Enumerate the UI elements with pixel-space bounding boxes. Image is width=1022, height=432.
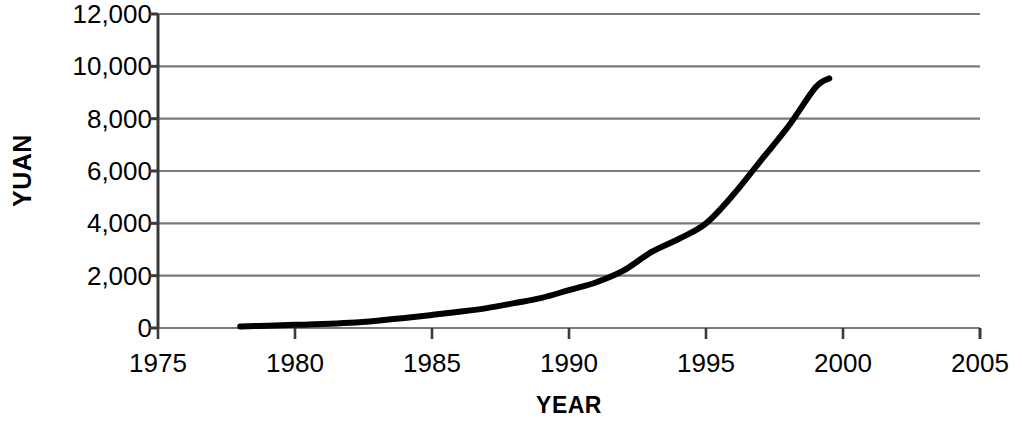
x-axis-tick-label: 1990	[509, 348, 629, 378]
x-axis-tick-label: 1980	[235, 348, 355, 378]
x-axis-tick-labels: 1975198019851990199520002005	[0, 348, 1022, 388]
x-axis-tick-label: 1975	[98, 348, 218, 378]
line-chart-figure: YUAN 02,0004,0006,0008,00010,00012,000 1…	[0, 0, 1022, 432]
data-series-line	[240, 78, 829, 326]
x-axis-tick-label: 2005	[920, 348, 1022, 378]
x-axis-tick-label: 1985	[372, 348, 492, 378]
x-axis-tick-label: 2000	[783, 348, 903, 378]
x-axis-title: YEAR	[158, 392, 980, 419]
x-axis-tick-label: 1995	[646, 348, 766, 378]
